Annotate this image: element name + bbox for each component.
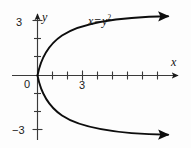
y-axis-tick-label-minus-3: −3	[12, 125, 25, 136]
x-axis-name: x	[171, 56, 176, 68]
y-axis-name: y	[42, 11, 47, 23]
parabola-lower-branch	[38, 76, 169, 135]
equation-rhs-exponent: 2	[107, 13, 111, 22]
parabola-figure: 3 −3 0 3 y x x=y2	[0, 0, 191, 148]
x-axis-tick-label-3: 3	[79, 80, 85, 91]
origin-label: 0	[24, 79, 30, 90]
equation-equals-sign: =	[93, 14, 102, 28]
y-axis-tick-label-3: 3	[16, 17, 22, 28]
equation-annotation: x=y2	[88, 15, 111, 27]
